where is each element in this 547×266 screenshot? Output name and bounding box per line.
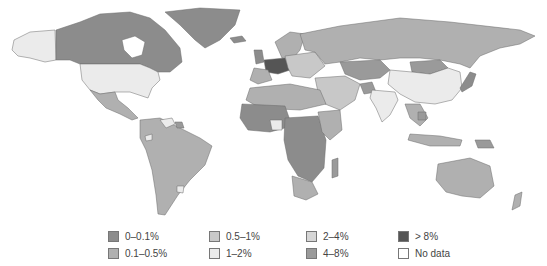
region-india	[370, 90, 398, 122]
legend-item-1-2: 1–2%	[209, 246, 252, 260]
legend-item-no-data: No data	[398, 246, 450, 260]
region-png	[475, 140, 494, 148]
region-japan	[460, 72, 476, 92]
legend-item-0.5-1: 0.5–1%	[209, 229, 260, 243]
region-canada	[56, 12, 182, 72]
legend-label: > 8%	[415, 231, 438, 242]
legend-item-0-0.1: 0–0.1%	[108, 229, 159, 243]
legend-label: 0–0.1%	[125, 231, 159, 242]
region-south-america	[140, 118, 212, 215]
legend-item-2-4: 2–4%	[306, 229, 349, 243]
world-map	[0, 0, 547, 225]
legend-item-4-8: 4–8%	[306, 246, 349, 260]
region-alaska	[12, 30, 56, 62]
region-russia	[300, 18, 535, 68]
legend-swatch	[398, 248, 409, 259]
region-china	[388, 68, 462, 104]
region-nigeria	[270, 120, 282, 130]
legend-label: 1–2%	[226, 248, 252, 259]
region-madagascar	[332, 158, 338, 178]
legend-label: 0.1–0.5%	[125, 248, 167, 259]
region-central-africa	[284, 116, 326, 182]
region-indonesia	[408, 134, 462, 146]
region-kazakhstan	[340, 60, 390, 80]
legend-label: 4–8%	[323, 248, 349, 259]
region-australia	[436, 158, 494, 198]
region-uruguay	[177, 186, 184, 193]
region-cambodia	[418, 112, 426, 120]
legend-swatch	[306, 248, 317, 259]
region-greenland	[165, 8, 240, 48]
legend-swatch	[398, 231, 409, 242]
legend-swatch	[209, 231, 220, 242]
map-legend: 0–0.1% 0.1–0.5% 0.5–1% 1–2% 2–4% 4–8% > …	[108, 229, 528, 265]
legend-swatch	[306, 231, 317, 242]
region-uk	[254, 50, 264, 64]
legend-label: No data	[415, 248, 450, 259]
legend-item-gt-8: > 8%	[398, 229, 438, 243]
legend-swatch	[108, 248, 119, 259]
legend-swatch	[209, 248, 220, 259]
legend-swatch	[108, 231, 119, 242]
region-mexico	[90, 90, 138, 120]
legend-label: 2–4%	[323, 231, 349, 242]
legend-item-0.1-0.5: 0.1–0.5%	[108, 246, 167, 260]
region-west-africa	[240, 104, 292, 132]
legend-label: 0.5–1%	[226, 231, 260, 242]
region-new-zealand	[512, 192, 522, 210]
region-iceland	[230, 36, 246, 43]
